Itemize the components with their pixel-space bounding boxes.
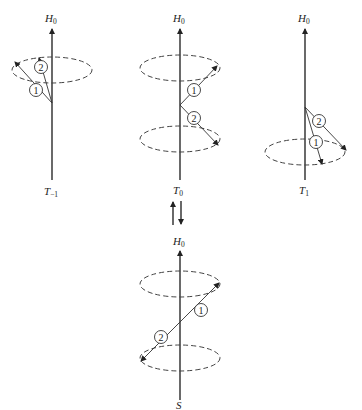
transition-arrows [173, 201, 181, 225]
state-t-minus-1: H0 1 2 T−1 [12, 12, 92, 199]
spin-state-diagram: H0 1 2 T−1 H0 1 2 T0 H0 2 1 T1 [0, 0, 362, 410]
state-t0: H0 1 2 T0 [140, 12, 220, 198]
state-s: H0 1 2 S [140, 235, 220, 410]
field-label-t1: H0 [297, 12, 310, 26]
svg-text:2: 2 [192, 113, 197, 124]
state-label-t0: T0 [173, 184, 183, 198]
spin-vector-2 [180, 105, 218, 145]
field-label-s: H0 [172, 235, 185, 249]
svg-text:2: 2 [317, 116, 322, 127]
state-label-s: S [176, 399, 182, 410]
svg-text:1: 1 [34, 85, 39, 96]
field-label-t-minus-1: H0 [44, 12, 57, 26]
svg-text:1: 1 [199, 305, 204, 316]
svg-text:2: 2 [159, 332, 164, 343]
svg-text:2: 2 [39, 62, 44, 73]
field-label-t0: H0 [172, 12, 185, 26]
svg-text:1: 1 [314, 137, 319, 148]
svg-text:1: 1 [192, 85, 197, 96]
state-label-t-minus-1: T−1 [44, 185, 58, 199]
state-label-t1: T1 [299, 184, 309, 198]
state-t1: H0 2 1 T1 [265, 12, 346, 198]
